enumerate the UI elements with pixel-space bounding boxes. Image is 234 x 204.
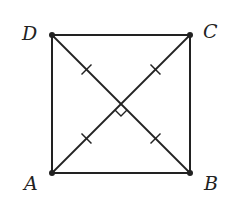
- vertex-c-dot: [187, 32, 193, 38]
- vertex-label-d: D: [21, 22, 37, 44]
- right-angle-marker: [115, 110, 127, 116]
- vertex-a-dot: [49, 170, 55, 176]
- vertex-b-dot: [187, 170, 193, 176]
- vertex-label-a: A: [22, 172, 38, 194]
- vertex-label-b: B: [203, 172, 218, 194]
- vertex-label-c: C: [203, 20, 218, 42]
- vertex-d-dot: [49, 32, 55, 38]
- square-diagram: D C A B: [0, 0, 234, 204]
